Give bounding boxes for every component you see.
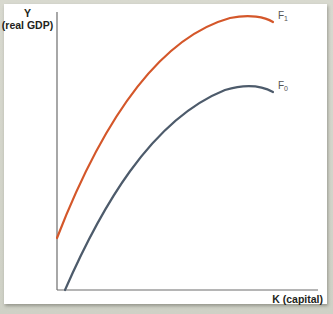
y-axis-label-description: (real GDP) bbox=[0, 19, 55, 31]
chart-plot-area bbox=[0, 0, 333, 314]
x-axis-label: K (capital) bbox=[272, 293, 323, 305]
production-curve-f1 bbox=[57, 16, 273, 238]
curve-label-f0: F0 bbox=[278, 80, 288, 92]
y-axis-label-symbol: Y bbox=[0, 7, 55, 19]
production-curve-f0 bbox=[65, 86, 273, 290]
chart-frame: Y (real GDP) K (capital) F1 F0 bbox=[0, 0, 333, 314]
curve-label-f1: F1 bbox=[278, 10, 288, 22]
y-axis-label: Y (real GDP) bbox=[0, 7, 55, 31]
curve-label-f0-sub: 0 bbox=[284, 85, 288, 92]
curve-label-f1-sub: 1 bbox=[284, 15, 288, 22]
